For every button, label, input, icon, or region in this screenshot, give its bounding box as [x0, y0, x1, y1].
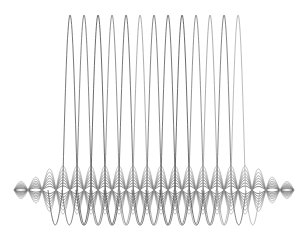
- band-curve: [14, 190, 294, 203]
- band-curve: [14, 166, 294, 190]
- waveform-plot: [0, 0, 308, 242]
- band-curve: [14, 174, 294, 190]
- band-curve: [14, 190, 294, 206]
- band-curve: [14, 190, 294, 210]
- oscillation-band: [14, 166, 294, 214]
- band-curve: [14, 177, 294, 190]
- band-curve: [14, 190, 294, 214]
- band-curve: [14, 170, 294, 190]
